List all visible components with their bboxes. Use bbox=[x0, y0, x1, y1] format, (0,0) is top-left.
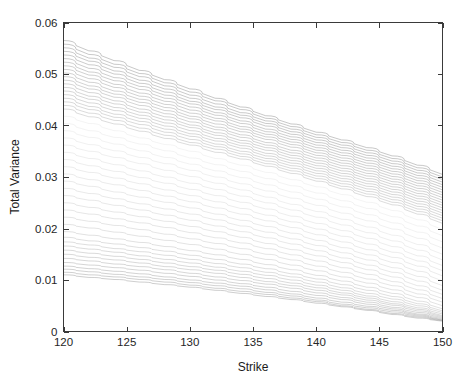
x-tick-label: 145 bbox=[370, 336, 389, 348]
y-tick-label: 0.06 bbox=[35, 17, 57, 29]
x-axis-title: Strike bbox=[238, 360, 269, 374]
chart-background bbox=[0, 0, 469, 382]
y-axis-title: Total Variance bbox=[8, 139, 22, 214]
y-tick-label: 0 bbox=[51, 326, 57, 338]
x-tick-label: 150 bbox=[433, 336, 452, 348]
y-tick-label: 0.01 bbox=[35, 274, 57, 286]
figure-canvas: 12012513013514014515000.010.020.030.040.… bbox=[0, 0, 469, 382]
x-tick-label: 125 bbox=[117, 336, 136, 348]
y-tick-label: 0.04 bbox=[35, 120, 58, 132]
x-tick-label: 130 bbox=[180, 336, 199, 348]
y-tick-label: 0.05 bbox=[35, 68, 57, 80]
y-tick-label: 0.03 bbox=[35, 171, 57, 183]
y-tick-label: 0.02 bbox=[35, 223, 57, 235]
total-variance-chart[interactable]: 12012513013514014515000.010.020.030.040.… bbox=[0, 0, 469, 382]
x-tick-label: 135 bbox=[243, 336, 262, 348]
x-tick-label: 140 bbox=[307, 336, 326, 348]
